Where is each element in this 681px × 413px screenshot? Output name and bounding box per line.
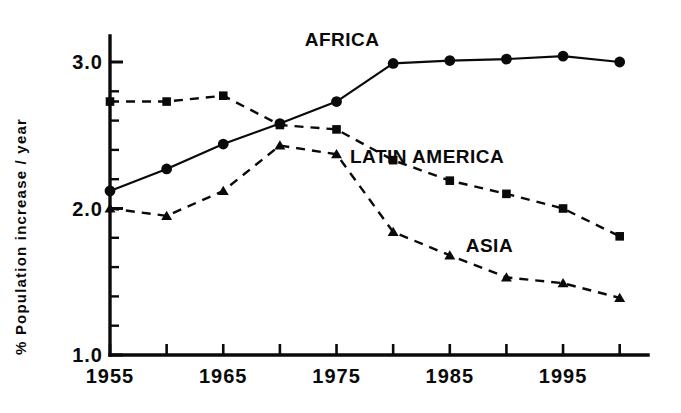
y-axis-title: % Population increase / year <box>12 118 29 355</box>
y-tick-label: 3.0 <box>72 51 103 73</box>
data-point-latin-america <box>615 232 624 241</box>
data-point-latin-america <box>559 204 568 213</box>
x-tick-label: 1975 <box>312 365 361 387</box>
x-tick-label: 1985 <box>426 365 475 387</box>
x-axis-tick-labels: 19551965197519851995 <box>86 365 588 387</box>
data-point-latin-america <box>332 125 341 134</box>
data-point-latin-america <box>276 121 285 130</box>
chart-plot-area: 1.02.03.0 19551965197519851995 % Populat… <box>0 0 681 413</box>
data-point-latin-america <box>219 91 228 100</box>
series-label-africa: AFRICA <box>305 29 380 50</box>
series-markers-group <box>105 51 626 302</box>
series-line-asia <box>110 146 620 298</box>
data-point-africa <box>105 186 116 197</box>
data-point-latin-america <box>502 190 511 199</box>
series-label-asia: ASIA <box>466 235 513 256</box>
population-increase-line-chart: 1.02.03.0 19551965197519851995 % Populat… <box>0 0 681 413</box>
x-tick-label: 1965 <box>199 365 248 387</box>
y-tick-label: 2.0 <box>72 198 103 220</box>
series-line-africa <box>110 56 620 191</box>
series-lines-group <box>110 56 620 298</box>
axis-lines <box>110 36 648 355</box>
data-point-africa <box>161 164 172 175</box>
data-point-asia <box>218 186 229 195</box>
x-tick-label: 1955 <box>86 365 135 387</box>
y-tick-label: 1.0 <box>72 344 103 366</box>
data-point-africa <box>444 55 455 66</box>
y-axis-tick-labels: 1.02.03.0 <box>72 51 103 366</box>
data-point-africa <box>614 57 625 68</box>
data-point-latin-america <box>162 97 171 106</box>
x-tick-label: 1995 <box>539 365 588 387</box>
data-point-africa <box>218 139 229 150</box>
series-label-latin-america: LATIN AMERICA <box>350 146 504 167</box>
data-point-africa <box>331 96 342 107</box>
data-point-latin-america <box>445 176 454 185</box>
data-point-africa <box>501 54 512 65</box>
data-point-latin-america <box>106 97 115 106</box>
data-point-africa <box>388 58 399 69</box>
data-point-africa <box>558 51 569 62</box>
